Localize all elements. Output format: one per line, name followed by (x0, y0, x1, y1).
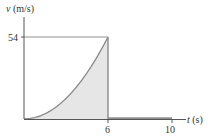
y-axis-unit: (m/s) (10, 3, 34, 15)
x-axis-unit: (s) (190, 114, 203, 126)
x-tick-label-6: 6 (105, 124, 110, 135)
y-tick-label-54: 54 (8, 32, 18, 43)
x-axis-label: t (s) (187, 114, 203, 126)
velocity-time-chart: v (m/s) 54 6 10 t (s) (0, 0, 208, 138)
shaded-area (24, 37, 108, 119)
y-axis-label: v (m/s) (6, 3, 34, 15)
x-tick-label-10: 10 (165, 124, 175, 135)
